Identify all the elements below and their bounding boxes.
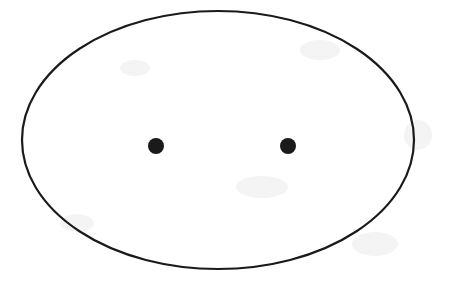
focus-left-dot [148, 138, 164, 154]
figure-canvas [0, 0, 449, 290]
ellipse-diagram [0, 0, 449, 290]
ellipse-outline [22, 11, 414, 269]
focus-right-dot [280, 138, 296, 154]
